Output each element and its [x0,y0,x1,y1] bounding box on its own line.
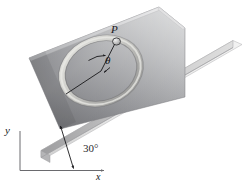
figure-canvas: y x [0,0,243,182]
mechanics-figure: y x [0,0,243,182]
theta-label: θ [105,54,111,66]
inclined-plate-shape [29,7,185,129]
bead-marker-icon [113,38,121,45]
point-p-label: P [110,23,118,35]
axis-label-x: x [95,171,101,182]
incline-angle-label: 30° [83,142,98,154]
axis-label-y: y [4,124,10,136]
